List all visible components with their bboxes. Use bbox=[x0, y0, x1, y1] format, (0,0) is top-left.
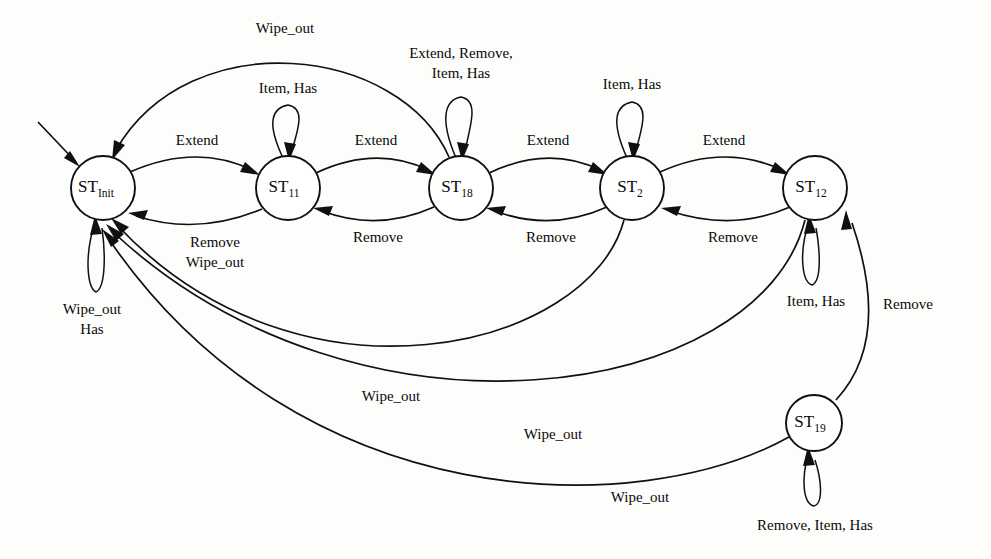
edge-label-remove-wipeout-line2: Wipe_out bbox=[186, 254, 245, 270]
state-label-s11-sub: 11 bbox=[288, 187, 299, 199]
edge-label-wipeout-top: Wipe_out bbox=[256, 20, 315, 36]
transition-s11-to-s18: Extend bbox=[316, 132, 436, 175]
edge-label-wipeout-1: Wipe_out bbox=[362, 388, 421, 404]
state-label-init-base: ST bbox=[78, 177, 98, 196]
transition-s2-to-s12: Extend bbox=[660, 132, 790, 175]
state-node-s11[interactable]: ST11 bbox=[256, 156, 320, 220]
state-node-s12[interactable]: ST12 bbox=[783, 156, 847, 220]
state-node-s18[interactable]: ST18 bbox=[429, 156, 493, 220]
edge-label-remove-2: Remove bbox=[526, 229, 576, 245]
transition-s18-to-s11: Remove bbox=[313, 206, 434, 245]
state-label-s11-base: ST bbox=[269, 177, 289, 196]
edge-label-remove-4: Remove bbox=[883, 296, 933, 312]
state-node-s19[interactable]: ST19 bbox=[786, 395, 842, 451]
state-label-s19-sub: 19 bbox=[814, 422, 826, 434]
self-loop-s18: Extend, Remove, Item, Has bbox=[409, 45, 513, 161]
initial-state-arrow bbox=[38, 122, 80, 167]
state-label-init-sub: Init bbox=[98, 187, 115, 199]
transition-s12-to-s2: Remove bbox=[661, 206, 790, 245]
transition-s18-to-s2: Extend bbox=[489, 132, 608, 175]
self-loop-label-init-line1: Wipe_out bbox=[63, 301, 122, 317]
self-loop-label-s18-line2: Item, Has bbox=[432, 65, 490, 81]
fsm-canvas: Extend Extend Extend Extend Remove Wipe_… bbox=[0, 0, 991, 559]
self-loop-label-s18-line1: Extend, Remove, bbox=[409, 45, 513, 61]
transition-s19-to-init-wipeout: Wipe_out bbox=[102, 229, 789, 505]
edge-label-extend-2: Extend bbox=[355, 132, 398, 148]
state-label-s2-sub: 2 bbox=[637, 187, 643, 199]
edge-label-remove-3: Remove bbox=[708, 229, 758, 245]
transition-s19-to-s12: Remove bbox=[836, 210, 933, 400]
self-loop-label-s2: Item, Has bbox=[603, 76, 661, 92]
edge-label-wipeout-3: Wipe_out bbox=[611, 489, 670, 505]
edge-label-remove-1: Remove bbox=[353, 229, 403, 245]
state-label-s2-base: ST bbox=[617, 177, 637, 196]
state-label-s18-sub: 18 bbox=[461, 187, 473, 199]
state-node-init[interactable]: STInit bbox=[71, 156, 135, 220]
edge-label-wipeout-2: Wipe_out bbox=[524, 426, 583, 442]
self-loop-label-s19: Remove, Item, Has bbox=[757, 517, 873, 533]
state-label-s19-base: ST bbox=[794, 412, 814, 431]
edge-label-extend-3: Extend bbox=[527, 132, 570, 148]
state-label-s18-base: ST bbox=[441, 177, 461, 196]
state-machine-diagram: Extend Extend Extend Extend Remove Wipe_… bbox=[0, 0, 991, 559]
transition-s2-to-s18: Remove bbox=[486, 206, 607, 245]
edge-label-extend-4: Extend bbox=[703, 132, 746, 148]
self-loop-s19: Remove, Item, Has bbox=[757, 446, 873, 533]
state-label-s12-sub: 12 bbox=[815, 187, 827, 199]
state-node-s2[interactable]: ST2 bbox=[600, 156, 664, 220]
self-loop-label-s11: Item, Has bbox=[259, 80, 317, 96]
transition-s12-to-init-wipeout: Wipe_out bbox=[106, 220, 805, 442]
edge-label-extend-1: Extend bbox=[176, 132, 219, 148]
transition-init-to-s11: Extend bbox=[130, 132, 260, 175]
transition-s2-to-init-wipeout: Wipe_out bbox=[111, 218, 624, 404]
self-loop-s11: Item, Has bbox=[259, 80, 317, 161]
self-loop-label-s12: Item, Has bbox=[787, 293, 845, 309]
self-loop-s2: Item, Has bbox=[603, 76, 661, 161]
state-label-s12-base: ST bbox=[795, 177, 815, 196]
self-loop-label-init-line2: Has bbox=[80, 321, 103, 337]
edge-label-remove-wipeout-line1: Remove bbox=[190, 234, 240, 250]
self-loop-s12: Item, Has bbox=[787, 214, 845, 309]
